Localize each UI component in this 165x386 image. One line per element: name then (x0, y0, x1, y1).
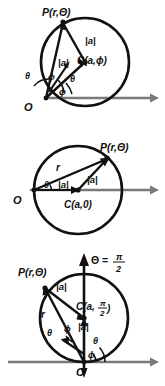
label-chord-a-upper: |a| (56, 281, 67, 292)
label-axis-theta: Θ (91, 254, 99, 266)
point-o-dot (82, 360, 87, 365)
label-point-o: O (24, 101, 33, 113)
label-angle-phi-bottom: ϕ (88, 350, 95, 360)
label-axis-numerator-pi: π (116, 252, 123, 262)
label-angle-theta-left: θ (47, 328, 52, 338)
label-center-c: C(a,0) (64, 199, 92, 210)
label-center-c: C(a,ϕ) (77, 55, 107, 66)
label-chord-a-lower: |a| (78, 321, 89, 332)
label-angle-theta: θ (44, 180, 49, 190)
figure-polar-axis-circle-canvas: P(r,Θ) O C(a,0) r |a| |a| θ (0, 126, 165, 250)
label-radius-r: r (41, 309, 46, 320)
label-chord-a-center: |a| (58, 179, 69, 190)
point-p-dot (104, 155, 109, 160)
point-o-dot (44, 96, 49, 101)
point-o-dot (32, 188, 37, 193)
label-chord-a-right: |a| (87, 174, 98, 185)
label-point-p: P(r,Θ) (42, 6, 71, 18)
label-axis-theta-equals-pi-over-2: Θ = π 2 (91, 252, 125, 274)
label-angle-theta-right: θ (70, 74, 75, 84)
polar-circle-figure-stack: P(r,Θ) O C(a,ϕ) |a| |a| r θ ϕ θ ϕ (0, 0, 165, 386)
figure-general-circle: P(r,Θ) O C(a,ϕ) |a| |a| r θ ϕ θ ϕ (0, 0, 165, 126)
label-point-p: P(r,Θ) (100, 141, 129, 153)
label-axis-denominator-2: 2 (115, 264, 121, 274)
label-chord-a-inner: |a| (58, 57, 69, 68)
figure-polar-axis-circle: P(r,Θ) O C(a,0) r |a| |a| θ (0, 126, 165, 250)
label-point-p: P(r,Θ) (18, 266, 47, 278)
label-point-o: O (13, 194, 22, 206)
point-c-dot (81, 315, 86, 320)
label-point-o: O (76, 366, 85, 378)
label-center-c-numerator-pi: π (100, 299, 106, 308)
point-p-dot (42, 285, 47, 290)
label-angle-theta-right: θ (93, 336, 98, 346)
label-center-c-prefix: C(a, (76, 301, 95, 312)
point-p-dot (60, 19, 65, 24)
label-center-c-denominator-2: 2 (99, 309, 105, 318)
label-angle-phi-bottom: ϕ (59, 87, 66, 97)
label-chord-a-outer: |a| (85, 35, 96, 46)
point-c-dot (75, 187, 80, 192)
label-angle-phi-inner: ϕ (64, 324, 71, 334)
label-angle-phi-inner: ϕ (48, 72, 55, 82)
figure-vertical-axis-circle-canvas: Θ = π 2 C(a, π 2 ) P(r,Θ) O r |a| |a| θ … (0, 250, 165, 386)
label-center-c-suffix: ) (106, 303, 111, 314)
figure-vertical-axis-circle: Θ = π 2 C(a, π 2 ) P(r,Θ) O r |a| |a| θ … (0, 250, 165, 386)
label-axis-equals: = (102, 254, 108, 266)
figure-general-circle-canvas: P(r,Θ) O C(a,ϕ) |a| |a| r θ ϕ θ ϕ (0, 0, 165, 126)
label-angle-theta-left: θ (25, 71, 30, 81)
label-radius-r: r (56, 162, 61, 173)
